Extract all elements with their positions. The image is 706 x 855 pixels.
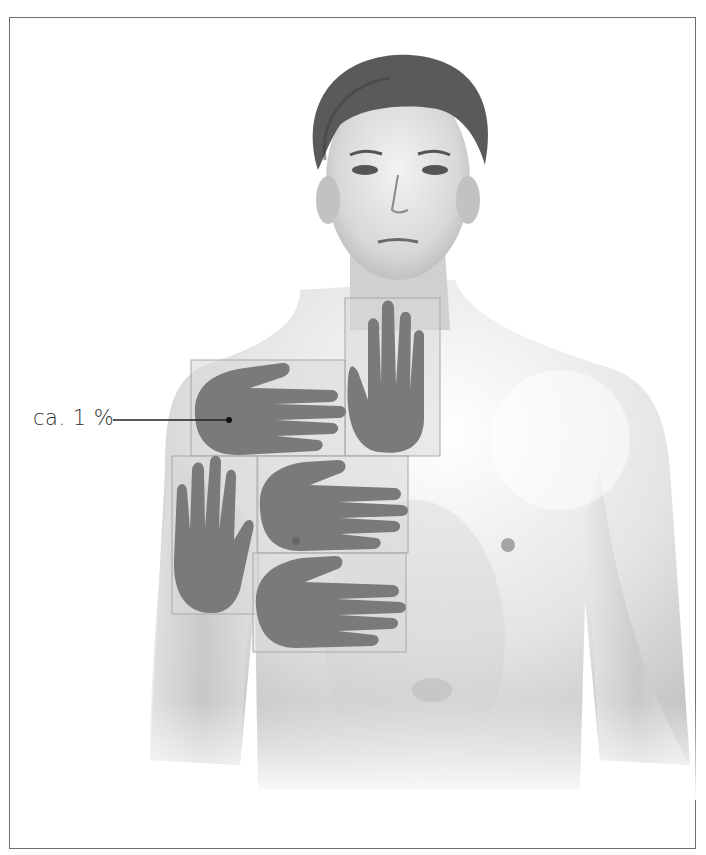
palm-arm-vertical: [172, 456, 258, 614]
head: [313, 55, 488, 280]
palm-neck-vertical: [345, 298, 440, 456]
palm-lower-chest-horizontal: [253, 553, 406, 652]
annotation-label: ca. 1 %: [33, 406, 114, 430]
palm-shoulder-horizontal: [191, 360, 346, 456]
palm-chest-horizontal: [257, 456, 408, 553]
leader-dot: [226, 417, 232, 423]
